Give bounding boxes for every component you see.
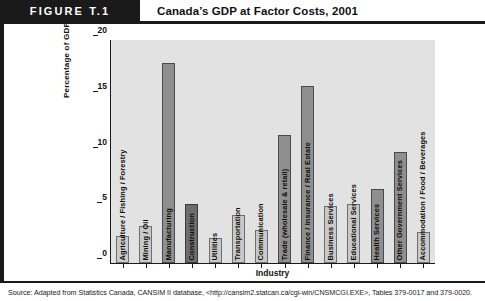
bar-slot: Business Services <box>319 40 342 263</box>
figure-title: Canada’s GDP at Factor Costs, 2001 <box>157 5 358 17</box>
bar-slot: Other Government Services <box>389 40 412 263</box>
y-tick-mark <box>93 91 98 92</box>
bar-slot: Educational Services <box>342 40 365 263</box>
figure-container: FIGURE T.1 Canada’s GDP at Factor Costs,… <box>0 0 485 301</box>
bar[interactable] <box>417 232 430 263</box>
bar[interactable] <box>394 152 407 264</box>
bottom-divider <box>0 281 485 283</box>
bar[interactable] <box>209 238 222 263</box>
plot-axes: Agriculture / Fishing / ForestryMining /… <box>110 40 435 264</box>
bar-slot: Accommodation / Food / Beverages <box>412 40 435 263</box>
bar[interactable] <box>324 206 337 263</box>
y-axis-tick: 0 <box>102 248 111 258</box>
y-tick-mark <box>97 258 102 259</box>
y-axis-tick: 15 <box>98 81 111 91</box>
bar-slot: Trade (wholesale & retail) <box>273 40 296 263</box>
y-axis-tick: 5 <box>102 192 111 202</box>
bar[interactable] <box>301 86 314 263</box>
bar-slot: Transportation <box>227 40 250 263</box>
y-axis-title: Percentage of GDP <box>62 0 71 120</box>
chart-area: Percentage of GDP Agriculture / Fishing … <box>0 24 485 281</box>
bar-slot: Construction <box>180 40 203 263</box>
y-tick-mark <box>93 147 98 148</box>
y-axis-tick: 20 <box>98 25 111 35</box>
bar-slot: Communication <box>250 40 273 263</box>
bar[interactable] <box>255 230 268 263</box>
bar[interactable] <box>347 204 360 263</box>
bar-slot: Finance / Insurance / Real Estate <box>296 40 319 263</box>
bar-slot: Utilities <box>204 40 227 263</box>
bar[interactable] <box>371 189 384 263</box>
y-axis-tick: 10 <box>98 137 111 147</box>
bar-slot: Health Services <box>366 40 389 263</box>
bar[interactable] <box>232 215 245 263</box>
bar[interactable] <box>278 135 291 263</box>
figure-title-area: Canada’s GDP at Factor Costs, 2001 <box>140 0 485 21</box>
bar-slot: Manufacturing <box>157 40 180 263</box>
bar[interactable] <box>185 204 198 263</box>
y-tick-mark <box>93 35 98 36</box>
bar[interactable] <box>116 236 129 263</box>
bar-series: Agriculture / Fishing / ForestryMining /… <box>111 40 435 263</box>
bar[interactable] <box>139 226 152 263</box>
bar-slot: Agriculture / Fishing / Forestry <box>111 40 134 263</box>
source-note: Source: Adapted from Statistics Canada, … <box>8 288 485 297</box>
x-axis-title: Industry <box>110 268 435 278</box>
y-tick-mark <box>97 202 102 203</box>
bar-slot: Mining / Oil <box>134 40 157 263</box>
bar[interactable] <box>162 63 175 263</box>
figure-header: FIGURE T.1 Canada’s GDP at Factor Costs,… <box>0 0 485 21</box>
